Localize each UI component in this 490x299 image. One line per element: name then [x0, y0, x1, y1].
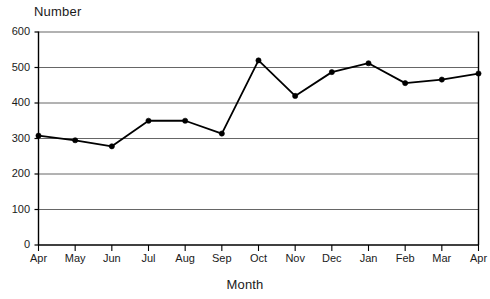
x-tick-label-1: May [55, 252, 95, 264]
x-axis-title: Month [0, 277, 490, 292]
x-tick-label-4: Aug [165, 252, 205, 264]
x-tick-label-5: Sep [202, 252, 242, 264]
data-point-Apr-308 [36, 133, 41, 138]
x-tick-label-9: Jan [349, 252, 389, 264]
y-tick-label-600: 600 [0, 25, 30, 37]
data-point-Jan-512 [366, 61, 371, 66]
y-tick-label-500: 500 [0, 61, 30, 73]
y-tick-label-400: 400 [0, 96, 30, 108]
data-point-Nov-420 [293, 93, 298, 98]
x-tick-label-10: Feb [385, 252, 425, 264]
y-tick-label-100: 100 [0, 203, 30, 215]
line-chart: Number 0100200300400500600 AprMayJunJulA… [0, 0, 490, 299]
y-tick-label-300: 300 [0, 132, 30, 144]
y-tick-label-200: 200 [0, 167, 30, 179]
data-point-Oct-520 [256, 58, 261, 63]
x-tick-label-11: Mar [422, 252, 462, 264]
data-point-May-295 [73, 138, 78, 143]
x-tick-label-0: Apr [19, 252, 59, 264]
data-point-Jun-278 [109, 144, 114, 149]
data-point-Mar-466 [439, 77, 444, 82]
x-tick-label-6: Oct [239, 252, 279, 264]
data-point-Aug-350 [183, 118, 188, 123]
x-axis-ticks [39, 245, 479, 251]
x-tick-label-12: Apr [459, 252, 490, 264]
data-point-Sep-314 [219, 131, 224, 136]
y-tick-label-0: 0 [0, 238, 30, 250]
x-tick-label-7: Nov [275, 252, 315, 264]
x-tick-label-2: Jun [92, 252, 132, 264]
data-point-Jul-350 [146, 118, 151, 123]
data-point-Apr-483 [476, 71, 481, 76]
data-point-Feb-456 [403, 81, 408, 86]
x-tick-label-8: Dec [312, 252, 352, 264]
x-tick-label-3: Jul [129, 252, 169, 264]
data-point-Dec-487 [329, 70, 334, 75]
